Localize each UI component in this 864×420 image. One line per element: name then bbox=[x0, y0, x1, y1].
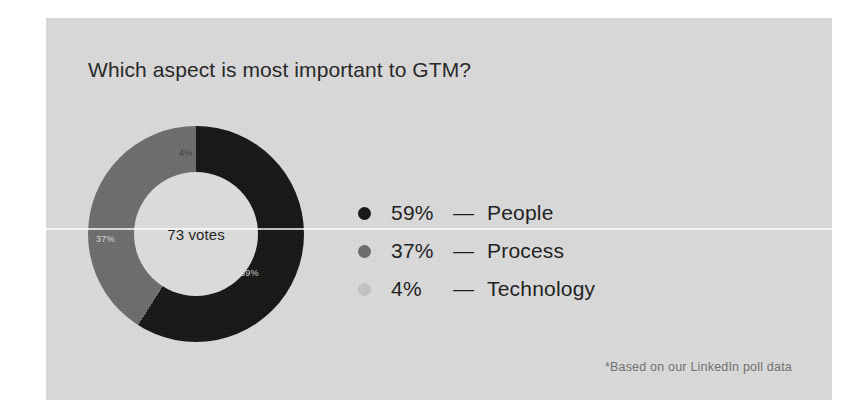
donut-center: 73 votes bbox=[134, 172, 258, 296]
legend-percent-people: 59% bbox=[391, 201, 453, 225]
total-votes-label: 73 votes bbox=[167, 226, 225, 243]
legend-label-people: People bbox=[487, 201, 554, 225]
legend-percent-technology: 4% bbox=[391, 277, 453, 301]
legend-label-technology: Technology bbox=[487, 277, 595, 301]
legend-dash-process: — bbox=[453, 239, 487, 263]
legend-dash-technology: — bbox=[453, 277, 487, 301]
source-footnote: *Based on our LinkedIn poll data bbox=[605, 360, 792, 374]
page-title: Which aspect is most important to GTM? bbox=[88, 58, 471, 82]
legend-label-process: Process bbox=[487, 239, 564, 263]
legend-dash-people: — bbox=[453, 201, 487, 225]
legend-color-dot-people bbox=[358, 207, 371, 220]
slice-label-process: 37% bbox=[96, 234, 115, 244]
legend-color-dot-process bbox=[358, 245, 371, 258]
legend-item-people: 59% — People bbox=[358, 194, 595, 232]
poll-result-card: Which aspect is most important to GTM? 5… bbox=[46, 18, 832, 400]
chart-legend: 59% — People 37% — Process 4% — Technolo… bbox=[358, 194, 595, 308]
slice-label-technology: 4% bbox=[179, 148, 192, 158]
legend-item-process: 37% — Process bbox=[358, 232, 595, 270]
legend-color-dot-technology bbox=[358, 283, 371, 296]
legend-item-technology: 4% — Technology bbox=[358, 270, 595, 308]
legend-percent-process: 37% bbox=[391, 239, 453, 263]
donut-chart: 59% 37% 4% 73 votes bbox=[88, 126, 304, 342]
slide-canvas: Which aspect is most important to GTM? 5… bbox=[0, 0, 864, 420]
